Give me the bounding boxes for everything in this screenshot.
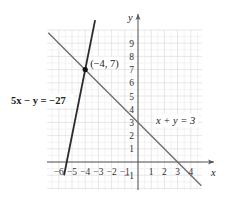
intersection-point (83, 67, 88, 72)
y-tick-label: −1 (124, 171, 134, 181)
y-tick-label: 7 (129, 65, 134, 75)
x-tick-label: 4 (188, 167, 193, 177)
equation-label-line2: x + y = 3 (155, 115, 195, 126)
x-tick-label: 2 (162, 167, 167, 177)
x-tick-label: 1 (149, 167, 154, 177)
y-tick-label: 8 (129, 52, 134, 62)
y-tick-label: 1 (129, 144, 134, 154)
x-tick-label: −5 (67, 167, 77, 177)
graph: xy −6−5−4−3−2−11234−1123456789 (−4, 7)5x… (0, 0, 228, 204)
equation-label-line1: 5x − y = −27 (11, 95, 66, 106)
y-tick-label: 4 (129, 105, 134, 115)
x-tick-label: −2 (107, 167, 117, 177)
x-tick-label: −4 (80, 167, 90, 177)
annotations: (−4, 7)5x − y = −27x + y = 3 (10, 57, 198, 127)
y-tick-label: 2 (129, 131, 134, 141)
y-tick-label: 5 (129, 92, 134, 102)
x-tick-label: −3 (93, 167, 103, 177)
y-tick-label: 6 (129, 78, 134, 88)
y-tick-label: 9 (129, 39, 134, 49)
y-tick-label: 3 (129, 118, 134, 128)
intersection-label: (−4, 7) (90, 58, 119, 70)
y-axis-label: y (127, 12, 133, 23)
x-tick-label: −6 (54, 167, 64, 177)
x-tick-label: 3 (175, 167, 180, 177)
x-axis-label: x (210, 167, 216, 178)
